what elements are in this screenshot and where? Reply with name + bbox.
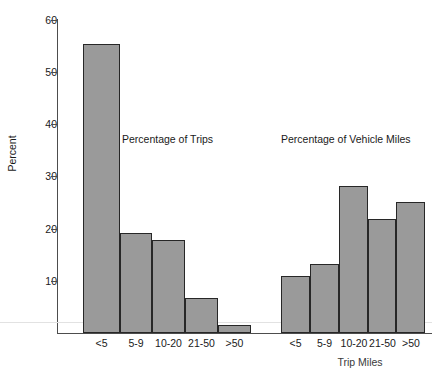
x-tick-label-trips-21-50: 21-50 bbox=[184, 337, 219, 349]
x-axis-line bbox=[57, 333, 432, 334]
bar-trips-21-50 bbox=[185, 298, 218, 333]
y-axis-line bbox=[57, 19, 58, 333]
annotation-percentage-of-vehicle-miles: Percentage of Vehicle Miles bbox=[281, 133, 411, 145]
bar-miles-5-9 bbox=[310, 264, 339, 333]
x-tick-label-trips-5-9: 5-9 bbox=[119, 337, 153, 349]
y-tick-mark-40 bbox=[51, 124, 57, 125]
x-tick-label-trips-lt5: <5 bbox=[83, 337, 120, 349]
x-tick-label-trips-gt50: >50 bbox=[218, 337, 251, 349]
y-tick-60: 60 bbox=[0, 15, 57, 26]
y-tick-50: 50 bbox=[0, 67, 57, 78]
bar-trips-10-20 bbox=[152, 240, 185, 333]
y-axis-title: Percent bbox=[7, 124, 18, 184]
y-tick-10: 10 bbox=[0, 276, 57, 287]
y-tick-20: 20 bbox=[0, 224, 57, 235]
y-tick-mark-50 bbox=[51, 72, 57, 73]
x-tick-label-miles-gt50: >50 bbox=[396, 337, 426, 349]
x-tick-label-trips-10-20: 10-20 bbox=[151, 337, 186, 349]
bar-trips-lt5 bbox=[83, 44, 120, 333]
x-tick-label-miles-5-9: 5-9 bbox=[310, 337, 339, 349]
annotation-percentage-of-trips: Percentage of Trips bbox=[122, 133, 213, 145]
y-tick-mark-10 bbox=[51, 281, 57, 282]
x-axis-title: Trip Miles bbox=[300, 356, 420, 368]
bar-trips-gt50 bbox=[218, 325, 251, 333]
bar-miles-10-20 bbox=[339, 186, 368, 333]
y-tick-mark-30 bbox=[51, 176, 57, 177]
x-tick-label-miles-lt5: <5 bbox=[281, 337, 310, 349]
y-tick-mark-20 bbox=[51, 229, 57, 230]
bar-miles-21-50 bbox=[368, 219, 396, 333]
bar-miles-gt50 bbox=[396, 202, 425, 333]
bar-trips-5-9 bbox=[120, 233, 152, 333]
y-tick-mark-60 bbox=[51, 20, 57, 21]
x-tick-label-miles-21-50: 21-50 bbox=[367, 337, 398, 349]
x-tick-label-miles-10-20: 10-20 bbox=[338, 337, 370, 349]
bar-miles-lt5 bbox=[281, 276, 310, 333]
